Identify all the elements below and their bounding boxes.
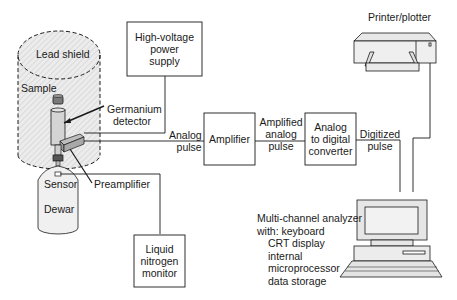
amplified-line2: analog: [258, 128, 304, 140]
analyzer-line1: Multi-channel analyzer: [257, 212, 362, 225]
germanium-detector-label: Germanium detector: [107, 103, 162, 127]
germanium-label-line1: Germanium: [107, 103, 162, 115]
printer-plotter: [354, 33, 436, 71]
ln2-line2: nitrogen: [141, 255, 179, 267]
analog-pulse-label: Analog pulse: [169, 129, 202, 153]
ln2-monitor-text: Liquid nitrogen monitor: [134, 235, 185, 287]
hv-line3: supply: [135, 55, 194, 67]
adc-line2: to digital: [309, 133, 353, 145]
digitized-line2: pulse: [358, 140, 402, 152]
printer-line: [413, 63, 430, 192]
adc-line1: Analog: [309, 121, 353, 133]
digitized-line1: Digitized: [358, 128, 402, 140]
dewar-label: Dewar: [44, 203, 74, 215]
analyzer-item-internal: internal: [268, 250, 362, 263]
digitized-pulse-label: Digitized pulse: [358, 128, 402, 152]
germanium-label-line2: detector: [107, 115, 162, 127]
analyzer-description: Multi-channel analyzer with: keyboard CR…: [257, 212, 362, 287]
preamplifier-label: Preamplifier: [94, 178, 150, 190]
amplified-line1: Amplified: [258, 116, 304, 128]
amplified-line3: pulse: [258, 140, 304, 152]
sample: [53, 95, 63, 105]
amplified-pulse-label: Amplified analog pulse: [258, 116, 304, 152]
ln2-line3: monitor: [141, 267, 179, 279]
adc-line3: converter: [309, 145, 353, 157]
dewar: [38, 166, 78, 234]
analog-pulse-line2: pulse: [169, 141, 202, 153]
analog-pulse-line1: Analog: [169, 129, 202, 141]
amplifier-text: Amplifier: [204, 113, 255, 165]
lead-shield-label: Lead shield: [36, 48, 90, 60]
adc-text: Analog to digital converter: [305, 113, 356, 165]
analyzer-item-crt: CRT display: [268, 237, 362, 250]
hv-line1: High-voltage: [135, 31, 194, 43]
printer-label: Printer/plotter: [368, 11, 431, 23]
hv-supply-text: High-voltage power supply: [127, 22, 202, 76]
analyzer-line2: with: keyboard: [257, 225, 362, 238]
analyzer-item-storage: data storage: [268, 275, 362, 288]
analyzer-item-microprocessor: microprocessor: [268, 262, 362, 275]
sample-label: Sample: [21, 82, 57, 94]
amplifier-line1: Amplifier: [209, 133, 250, 145]
hv-line2: power: [135, 43, 194, 55]
ln2-line1: Liquid: [141, 243, 179, 255]
sensor-label: Sensor: [44, 178, 77, 190]
